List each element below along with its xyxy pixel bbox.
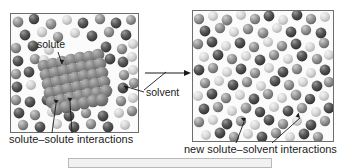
process-arrowhead — [184, 70, 191, 76]
panel-before-graphic — [11, 14, 138, 132]
dissolution-figure: solute solvent solute–solute interaction… — [0, 0, 341, 168]
caption-solute-solute-interactions: solute–solute interactions — [9, 134, 133, 145]
caption-box — [68, 158, 272, 168]
panel-before-dissolution — [10, 13, 139, 133]
label-solvent: solvent — [146, 87, 179, 98]
label-solute: solute — [37, 39, 65, 50]
caption-new-solute-solvent-interactions: new solute–solvent interactions — [184, 144, 337, 155]
panel-after-dissolution — [192, 10, 334, 142]
panel-after-graphic — [193, 11, 333, 141]
